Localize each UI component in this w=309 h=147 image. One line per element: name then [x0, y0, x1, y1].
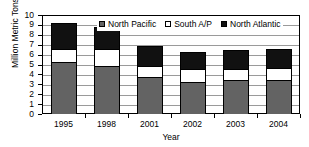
legend-label: South A/P [174, 19, 212, 29]
bar-segment[interactable] [180, 69, 206, 81]
bar-group[interactable] [266, 49, 292, 114]
legend-swatch-icon [99, 21, 105, 27]
y-tick-label: 10 [12, 11, 34, 19]
y-tick-label: 7 [12, 40, 34, 48]
bar-segment[interactable] [94, 66, 120, 114]
legend-item[interactable]: South A/P [165, 19, 212, 29]
x-tick-mark [85, 114, 86, 118]
x-tick-mark [300, 114, 301, 118]
y-tick-mark [38, 104, 42, 105]
y-tick-mark [38, 25, 42, 26]
x-tick-label: 1995 [44, 119, 84, 129]
chart-legend: North PacificSouth A/PNorth Atlantic [97, 17, 283, 31]
y-tick-mark [38, 84, 42, 85]
x-tick-label: 2003 [216, 119, 256, 129]
bar-segment[interactable] [137, 46, 163, 66]
x-tick-label: 1998 [87, 119, 127, 129]
x-tick-mark [257, 114, 258, 118]
bar-segment[interactable] [266, 80, 292, 114]
y-tick-label: 9 [12, 20, 34, 28]
x-axis-title: Year [42, 132, 300, 142]
x-tick-mark [128, 114, 129, 118]
y-tick-mark [38, 45, 42, 46]
y-tick-mark [38, 74, 42, 75]
x-tick-label: 2001 [130, 119, 170, 129]
x-tick-mark [214, 114, 215, 118]
legend-label: North Pacific [108, 19, 156, 29]
y-tick-mark [38, 114, 42, 115]
y-tick-label: 3 [12, 80, 34, 88]
bar-segment[interactable] [223, 69, 249, 80]
y-tick-mark [38, 15, 42, 16]
y-tick-label: 2 [12, 90, 34, 98]
bar-segment[interactable] [266, 49, 292, 68]
bar-group[interactable] [223, 50, 249, 114]
legend-item[interactable]: North Atlantic [221, 19, 281, 29]
bar-segment[interactable] [223, 80, 249, 114]
x-tick-label: 2004 [259, 119, 299, 129]
y-tick-label: 1 [12, 100, 34, 108]
bar-segment[interactable] [137, 77, 163, 114]
bar-segment[interactable] [137, 66, 163, 77]
bar-group[interactable] [94, 27, 120, 114]
stacked-bar-chart: Million Metric Tons Year North PacificSo… [0, 0, 309, 147]
y-tick-label: 6 [12, 50, 34, 58]
bar-segment[interactable] [94, 49, 120, 66]
legend-label: North Atlantic [230, 19, 281, 29]
legend-swatch-icon [221, 21, 227, 27]
bar-group[interactable] [137, 46, 163, 114]
bar-segment[interactable] [223, 50, 249, 69]
bar-segment[interactable] [51, 49, 77, 62]
y-tick-label: 8 [12, 30, 34, 38]
legend-swatch-icon [165, 21, 171, 27]
bar-segment[interactable] [51, 62, 77, 114]
y-tick-mark [38, 35, 42, 36]
bar-group[interactable] [180, 52, 206, 114]
y-tick-label: 5 [12, 60, 34, 68]
legend-item[interactable]: North Pacific [99, 19, 156, 29]
bar-segment[interactable] [51, 23, 77, 49]
y-tick-label: 4 [12, 70, 34, 78]
y-tick-label: 0 [12, 110, 34, 118]
bar-segment[interactable] [180, 82, 206, 114]
y-tick-mark [38, 94, 42, 95]
bar-segment[interactable] [266, 68, 292, 80]
y-tick-mark [38, 55, 42, 56]
y-tick-mark [38, 65, 42, 66]
x-tick-label: 2002 [173, 119, 213, 129]
x-tick-mark [171, 114, 172, 118]
bar-segment[interactable] [180, 52, 206, 70]
bar-group[interactable] [51, 23, 77, 114]
